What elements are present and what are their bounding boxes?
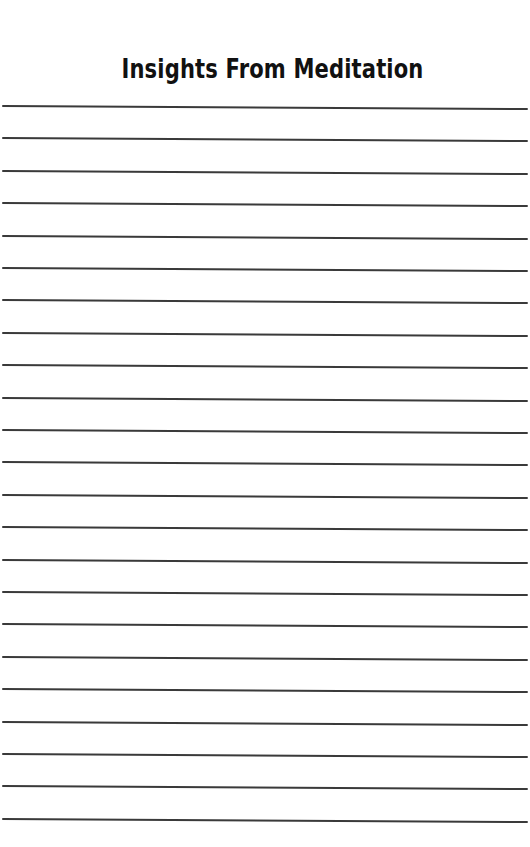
writing-line (2, 170, 528, 175)
writing-line (2, 364, 528, 369)
writing-line (2, 202, 528, 207)
writing-line (2, 591, 528, 596)
writing-line (2, 299, 528, 304)
writing-line (2, 332, 528, 337)
writing-line (2, 753, 528, 758)
writing-line (2, 105, 528, 110)
writing-line (2, 623, 528, 628)
writing-line (2, 656, 528, 661)
writing-line (2, 785, 528, 790)
writing-line (2, 818, 528, 823)
writing-line (2, 688, 528, 693)
journal-page: Insights From Meditation (0, 0, 530, 847)
writing-line (2, 429, 528, 434)
writing-line (2, 721, 528, 726)
writing-line (2, 559, 528, 564)
writing-line (2, 397, 528, 402)
writing-line (2, 235, 528, 240)
writing-line (2, 267, 528, 272)
writing-line (2, 494, 528, 499)
writing-line (2, 461, 528, 466)
writing-line (2, 526, 528, 531)
ruled-lines (0, 0, 530, 847)
writing-line (2, 137, 528, 142)
